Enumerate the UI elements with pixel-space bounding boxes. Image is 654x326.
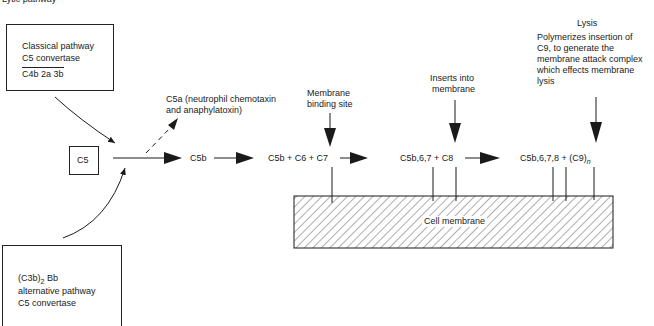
alt-line1-prefix: (C3b)	[18, 273, 41, 283]
lysis-title: Lysis	[577, 18, 597, 29]
lysis-desc-line4: which effects membrane	[537, 65, 634, 76]
inserts-line1: Inserts into	[430, 73, 474, 84]
c567-to-c8-arrow	[340, 152, 368, 164]
lysis-down-arrow	[590, 97, 602, 143]
c5-box: C5	[69, 146, 99, 175]
c5a-dashed-arrow	[146, 118, 178, 153]
alternative-line1: (C3b)2 Bb	[18, 273, 58, 287]
classical-line1: Classical pathway	[22, 41, 94, 52]
diagram-title: Lytic pathway	[2, 0, 56, 5]
classical-pathway-box: Classical pathway C5 convertase C4b 2a 3…	[6, 24, 114, 91]
lysis-desc-line1: Polymerizes insertion of	[537, 32, 633, 43]
c5a-label-line1: C5a (neutrophil chemotaxin	[166, 94, 276, 105]
lysis-desc-line5: lysis	[537, 76, 555, 87]
alternative-to-c5-arrow	[63, 168, 125, 238]
lysis-desc-line2: C9, to generate the	[537, 43, 614, 54]
node-c9-prefix: C5b,6,7,8 + (C9)	[520, 153, 587, 163]
membrane-binding-line1: Membrane	[307, 88, 350, 99]
node-c5b-c6-c7: C5b + C6 + C7	[268, 153, 328, 164]
cell-membrane-label: Cell membrane	[422, 216, 487, 227]
membrane-binding-line2: binding site	[307, 99, 353, 110]
classical-to-c5-arrow	[55, 97, 115, 143]
c5a-label-line2: and anaphylatoxin)	[166, 105, 242, 116]
c5-to-c5b-arrow	[113, 152, 182, 164]
classical-line3-text: C4b 2a 3b	[22, 67, 64, 80]
alternative-line2: alternative pathway	[18, 286, 96, 297]
node-c5b67-c8: C5b,6,7 + C8	[400, 153, 453, 164]
alternative-line3: C5 convertase	[18, 298, 76, 309]
node-c5b: C5b	[190, 153, 207, 164]
c5b-to-c567-arrow	[214, 152, 254, 164]
c8-to-c9-arrow	[465, 152, 500, 164]
c5-label: C5	[77, 155, 89, 166]
lysis-desc-line3: membrane attack complex	[537, 54, 643, 65]
classical-line2: C5 convertase	[22, 53, 80, 64]
alt-line1-suffix: Bb	[44, 273, 58, 283]
classical-line3: C4b 2a 3b	[22, 67, 64, 80]
inserts-line2: membrane	[432, 84, 475, 95]
node-c5b678-c9: C5b,6,7,8 + (C9)n	[520, 153, 591, 167]
node-c9-sub: n	[587, 158, 591, 165]
inserts-down-arrow	[449, 100, 461, 143]
membrane-binding-down-arrow	[324, 113, 336, 147]
alternative-pathway-box: (C3b)2 Bb alternative pathway C5 convert…	[2, 245, 122, 326]
